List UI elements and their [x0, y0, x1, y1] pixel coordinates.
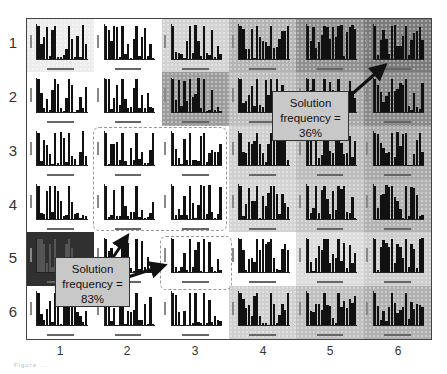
histogram-panel-r6-c4 [229, 286, 296, 339]
histogram-panel-r4-c5 [296, 179, 363, 232]
histogram-panel-r6-c5 [296, 286, 363, 339]
histogram-panel-r3-c6 [364, 126, 431, 179]
y-axis-label [232, 142, 234, 155]
histogram-bar [251, 29, 253, 59]
histogram-bar [127, 44, 129, 58]
histogram-bar [287, 207, 289, 219]
histogram-panel-r6-c3 [162, 286, 229, 339]
histogram-bar [85, 156, 87, 165]
histogram-bar [54, 26, 56, 58]
y-axis-label [366, 35, 368, 48]
y-axis-label [366, 142, 368, 155]
histogram-axes [373, 238, 424, 273]
col-label-5: 5 [320, 344, 340, 358]
y-axis-label [30, 248, 32, 261]
row-label-1: 1 [6, 34, 20, 51]
row-label-5: 5 [6, 249, 20, 266]
histogram-bar [340, 25, 342, 58]
y-axis-label [30, 88, 32, 101]
histogram-panel-r3-c1 [27, 126, 94, 179]
x-axis-label [384, 174, 411, 176]
histogram-bar [71, 85, 73, 112]
histogram-bar [149, 44, 151, 59]
y-axis-label [232, 35, 234, 48]
histogram-bar [108, 79, 110, 112]
histogram-bar [63, 138, 65, 165]
histogram-axes [104, 78, 155, 113]
x-axis-label [182, 121, 209, 123]
histogram-panel-r2-c1 [27, 72, 94, 125]
y-axis-label [366, 302, 368, 315]
x-axis-label [115, 68, 142, 70]
y-axis-label [366, 88, 368, 101]
histogram-bar [76, 36, 78, 59]
histogram-bar [152, 58, 154, 59]
histogram-bar [54, 133, 56, 165]
histogram-bar [421, 83, 423, 112]
highlight-region-upper [93, 127, 227, 231]
y-axis-label [30, 35, 32, 48]
histogram-bar [46, 27, 48, 58]
y-axis-label [97, 35, 99, 48]
x-axis-label [384, 334, 411, 336]
row-label-4: 4 [6, 196, 20, 213]
histogram-axes [373, 131, 424, 166]
histogram-bar [194, 293, 196, 325]
callout-83-line1: Solution [56, 262, 129, 277]
histogram-bar [287, 293, 289, 325]
histogram-bar [152, 108, 154, 112]
histogram-bar [152, 324, 154, 325]
x-axis-label [384, 121, 411, 123]
histogram-axes [36, 184, 87, 219]
row-label-3: 3 [6, 142, 20, 159]
y-axis-label [30, 302, 32, 315]
histogram-axes [373, 291, 424, 326]
x-axis-label [317, 228, 344, 230]
x-axis-label [47, 228, 74, 230]
histogram-bar [135, 26, 137, 58]
y-axis-label [164, 88, 166, 101]
histogram-panel-r2-c3 [162, 72, 229, 125]
y-axis-label [30, 195, 32, 208]
histogram-panel-r5-c5 [296, 232, 363, 285]
y-axis-label [299, 195, 301, 208]
histogram-bar [421, 215, 423, 219]
y-axis-label [299, 142, 301, 155]
callout-36-line3: 36% [273, 126, 348, 141]
histogram-axes [238, 184, 289, 219]
histogram-panel-r5-c4 [229, 232, 296, 285]
histogram-bar [85, 216, 87, 219]
histogram-bar [144, 304, 146, 325]
histogram-axes [373, 24, 424, 59]
y-axis-label [299, 302, 301, 315]
histogram-bar [239, 186, 241, 218]
histogram-bar [374, 26, 376, 58]
y-axis-label [232, 302, 234, 315]
histogram-bar [287, 26, 289, 58]
x-axis-label [317, 334, 344, 336]
histogram-axes [104, 24, 155, 59]
histogram-bar [219, 111, 221, 112]
histogram-bar [273, 304, 275, 326]
callout-83-line2: frequency = [56, 277, 129, 292]
x-axis-label [115, 334, 142, 336]
histogram-bar [242, 250, 244, 272]
histogram-bar [135, 239, 137, 271]
histogram-bar [211, 30, 213, 59]
col-label-1: 1 [50, 344, 70, 358]
x-axis-label [47, 334, 74, 336]
histogram-bar [421, 238, 423, 272]
histogram-panel-r1-c3 [162, 19, 229, 72]
histogram-axes [306, 291, 357, 326]
col-label-4: 4 [253, 344, 273, 358]
histogram-axes [36, 78, 87, 113]
y-axis-label [232, 88, 234, 101]
histogram-bar [354, 98, 356, 112]
histogram-panel-r1-c5 [296, 19, 363, 72]
x-axis-label [249, 334, 276, 336]
highlight-region-lower [160, 236, 232, 290]
histogram-bar [287, 160, 289, 165]
col-label-2: 2 [117, 344, 137, 358]
x-axis-label [115, 121, 142, 123]
histogram-bar [354, 253, 356, 272]
